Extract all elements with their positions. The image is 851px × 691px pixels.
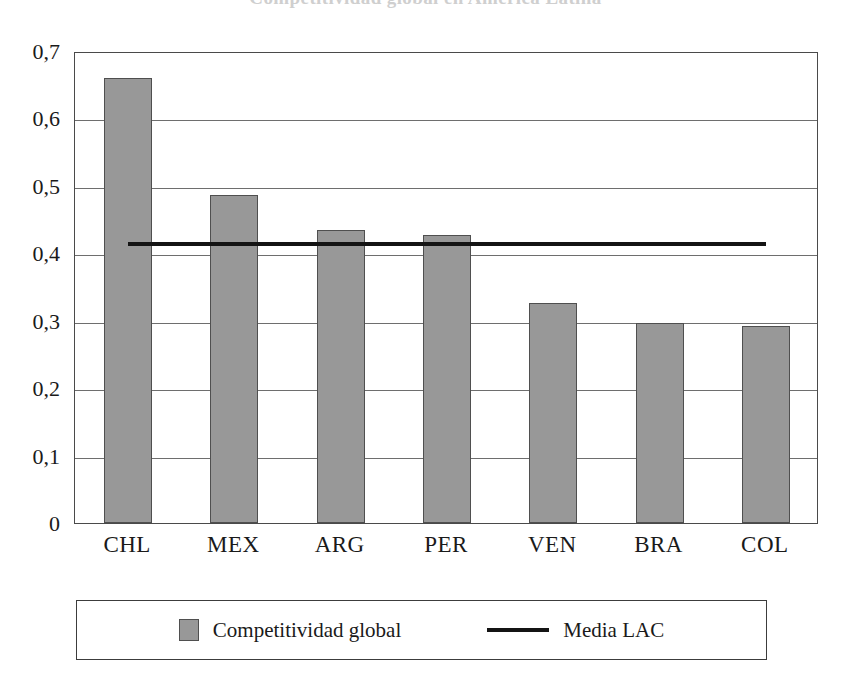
chart-legend: Competitividad global Media LAC [76,600,767,660]
bar-ven [529,303,577,523]
bar-per [423,235,471,523]
legend-label: Competitividad global [213,619,401,641]
x-tick-label-col: COL [712,530,818,560]
chart-container: Competitividad global en América Latina … [0,0,851,691]
line-swatch-icon [487,628,549,632]
x-tick-label-mex: MEX [180,530,286,560]
bar-series-competitividad-global [75,53,817,523]
bar-bra [636,323,684,523]
x-tick-label-arg: ARG [287,530,393,560]
y-tick-label: 0,4 [4,243,60,265]
x-tick-label-chl: CHL [74,530,180,560]
y-tick-label: 0,2 [4,378,60,400]
y-tick-label: 0,3 [4,311,60,333]
bar-col [742,326,790,523]
y-tick-label: 0 [4,513,60,535]
chart-title-clipped: Competitividad global en América Latina [0,0,851,12]
mean-line-media-lac [128,242,766,246]
x-axis: CHLMEXARGPERVENBRACOL [74,530,818,564]
y-tick-label: 0,5 [4,176,60,198]
bar-arg [317,230,365,523]
y-tick-label: 0,6 [4,108,60,130]
y-tick-label: 0,7 [4,41,60,63]
chart-title: Competitividad global en América Latina [0,0,851,9]
x-tick-label-per: PER [393,530,499,560]
bar-chl [104,78,152,523]
x-tick-label-ven: VEN [499,530,605,560]
y-tick-label: 0,1 [4,446,60,468]
x-tick-label-bra: BRA [605,530,711,560]
legend-item-media-lac: Media LAC [487,619,664,641]
legend-label: Media LAC [563,619,664,641]
square-swatch-icon [179,619,199,641]
legend-item-competitividad-global: Competitividad global [179,619,401,641]
y-axis: 0,7 0,6 0,5 0,4 0,3 0,2 0,1 0 [0,52,60,524]
plot-area [74,52,818,524]
